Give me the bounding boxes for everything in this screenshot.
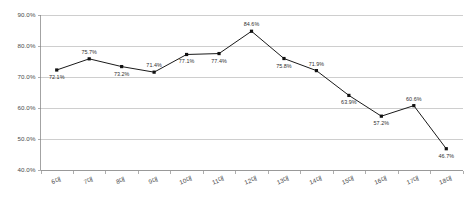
line-chart: 40.0%50.0%60.0%70.0%80.0%90.0% 6대7대8대9대1…	[0, 0, 471, 213]
data-point-value-label: 72.1%	[49, 74, 65, 80]
data-point-marker	[282, 57, 285, 60]
data-point-marker	[55, 68, 58, 71]
data-point-value-label: 77.4%	[211, 58, 227, 64]
data-point-value-label: 46.7%	[438, 153, 454, 159]
data-point-marker	[347, 94, 350, 97]
chart-background	[0, 0, 471, 213]
data-point-marker	[120, 65, 123, 68]
data-point-value-label: 75.8%	[276, 63, 292, 69]
data-point-marker	[250, 30, 253, 33]
data-point-marker	[445, 147, 448, 150]
y-axis-tick-label: 60.0%	[17, 104, 35, 111]
data-point-marker	[315, 69, 318, 72]
y-axis-tick-label: 70.0%	[17, 73, 35, 80]
data-point-value-label: 71.4%	[146, 62, 162, 68]
y-axis-tick-label: 50.0%	[17, 135, 35, 142]
data-point-value-label: 77.1%	[179, 58, 195, 64]
data-point-marker	[185, 53, 188, 56]
data-point-marker	[412, 104, 415, 107]
data-point-marker	[88, 57, 91, 60]
chart-canvas: 40.0%50.0%60.0%70.0%80.0%90.0% 6대7대8대9대1…	[0, 0, 471, 213]
y-axis-tick-label: 90.0%	[17, 11, 35, 18]
y-axis-tick-label: 80.0%	[17, 42, 35, 49]
y-axis-tick-label: 40.0%	[17, 166, 35, 173]
data-point-marker	[153, 71, 156, 74]
data-point-value-label: 73.2%	[114, 71, 130, 77]
data-point-marker	[217, 52, 220, 55]
data-point-value-label: 84.6%	[244, 21, 260, 27]
data-point-value-label: 71.9%	[309, 61, 325, 67]
data-point-marker	[380, 115, 383, 118]
data-point-value-label: 63.9%	[341, 99, 357, 105]
data-point-value-label: 60.6%	[406, 96, 422, 102]
data-point-value-label: 57.2%	[374, 120, 390, 126]
data-point-value-label: 75.7%	[81, 49, 97, 55]
